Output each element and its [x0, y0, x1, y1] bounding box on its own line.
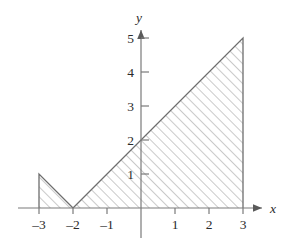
y-ticklabel-1: 1 [127, 167, 134, 182]
y-ticklabel-3: 3 [127, 99, 134, 114]
y-ticklabel-5: 5 [127, 31, 134, 46]
y-ticklabel-4: 4 [127, 65, 134, 80]
y-ticklabel-2: 2 [127, 133, 134, 148]
y-axis-label: y [134, 10, 142, 25]
x-ticklabel-1: 1 [172, 217, 179, 232]
x-ticklabel--2: –2 [65, 217, 80, 232]
x-ticklabel--3: –3 [31, 217, 46, 232]
x-ticklabel-2: 2 [206, 217, 213, 232]
x-ticklabel-3: 3 [240, 217, 247, 232]
x-ticklabel--1: –1 [99, 217, 114, 232]
coordinate-plane-svg: –3 –2 –1 1 2 3 1 2 3 4 5 x y [0, 0, 295, 252]
x-axis-arrowhead [253, 204, 262, 212]
graph-figure: –3 –2 –1 1 2 3 1 2 3 4 5 x y [0, 0, 295, 252]
x-axis-label: x [269, 201, 276, 216]
